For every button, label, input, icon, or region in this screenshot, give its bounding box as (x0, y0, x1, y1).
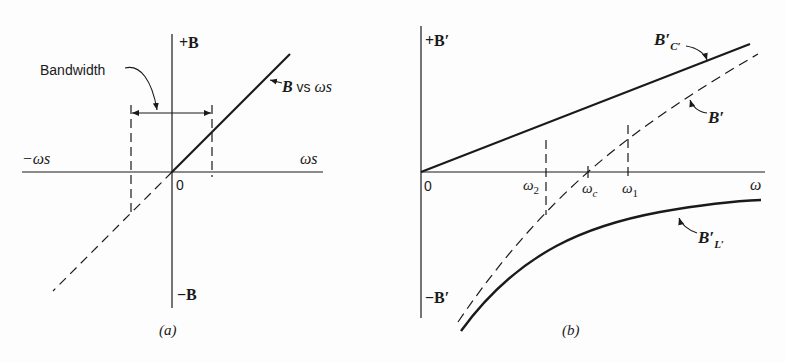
a-bandwidth-label: Bandwidth (40, 62, 105, 78)
a-b-vs-ws-dashed (53, 172, 172, 291)
b-w2-sub: 2 (534, 184, 540, 196)
b-capacitive-line (421, 44, 750, 172)
a-line-label-vs: vs (293, 79, 315, 95)
a-caption: (a) (159, 322, 177, 339)
b-caption: (b) (562, 322, 580, 339)
a-line-label-b: B (281, 78, 293, 95)
b-inductive-curve (461, 200, 761, 331)
b-inductive-label: B′L′ (697, 228, 724, 250)
b-total-label: B′ (707, 108, 724, 127)
b-inductive-leader (679, 218, 697, 233)
b-w1-label: ω1 (622, 180, 638, 199)
panel-a: Bandwidth +B −B −ωs ωs 0 B vs ωs (a) (22, 34, 332, 339)
a-line-label: B vs ωs (281, 78, 332, 95)
b-origin-label: 0 (424, 178, 432, 194)
b-w2-label: ω2 (523, 177, 539, 196)
a-ws-label: ωs (300, 150, 318, 167)
a-plus-b-label: +B (179, 34, 199, 51)
b-total-susceptance-dashed (458, 54, 758, 322)
b-plus-b-label: +B′ (425, 32, 449, 49)
b-minus-b-label: −B′ (425, 289, 449, 306)
b-omega-label: ω (750, 176, 761, 193)
a-minus-b-label: −B (177, 286, 197, 303)
b-capacitive-label: B′C′ (653, 30, 681, 52)
b-inductive-sub: L′ (713, 238, 724, 250)
a-line-label-ws: ωs (314, 78, 332, 95)
a-plus-b-text: +B (179, 34, 199, 51)
a-minus-ws-label: −ωs (22, 150, 50, 167)
a-origin-label: 0 (176, 177, 184, 193)
a-line-label-leader (270, 80, 282, 83)
panel-b: +B′ −B′ 0 ω ω2 ωc ω1 B′C′ B′ B′L′ (b) (421, 26, 765, 339)
b-capacitive-sub: C′ (670, 40, 680, 52)
a-bandwidth-leader (125, 67, 157, 110)
b-total-leader (690, 100, 707, 113)
b-w1-sub: 1 (633, 187, 639, 199)
diagram-canvas: Bandwidth +B −B −ωs ωs 0 B vs ωs (a) +B′ (0, 0, 785, 363)
b-capacitive-leader (686, 46, 707, 60)
b-wc-label: ωc (582, 180, 598, 199)
b-wc-sub: c (593, 187, 598, 199)
